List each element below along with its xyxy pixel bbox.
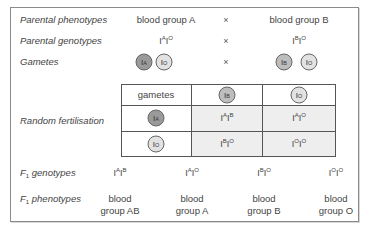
cell-ibio: IBIO [220,138,234,150]
parent-b-phenotype: blood group B [269,14,328,26]
grid-divider [262,84,263,157]
cell-iaio: IAIO [292,112,306,124]
grid-divider [191,84,192,157]
cross-symbol: × [223,15,228,25]
f1-genotype-iaio: IAIO [185,167,199,179]
parent-a-phenotype: blood group A [137,14,196,26]
f1-phenotype-a: bloodgroup A [176,193,209,217]
label-random-fertilisation: Random fertilisation [20,115,104,126]
grid-divider [121,105,336,106]
cross-symbol: × [223,36,228,46]
label-f1-genotypes: F1 genotypes [20,167,76,179]
cell-iaib: IAIB [220,112,233,124]
punnett-corner-label: gametes [138,89,174,101]
gamete-a-io: IO [156,54,173,71]
gamete-b-ib: IB [276,54,293,71]
f1-genotype-iaib: IAIB [113,167,126,179]
gamete-b-io: IO [301,54,318,71]
parent-b-genotype: IBIO [292,35,306,47]
cross-symbol: × [223,57,228,67]
f1-phenotype-ab: bloodgroup AB [100,193,139,217]
f1-genotype-ioio: IOIO [329,167,343,179]
cell-ioio: IOIO [292,138,306,150]
parent-a-genotype: IAIO [159,35,173,47]
grid-divider [121,131,336,132]
f1-genotype-ibio: IBIO [257,167,271,179]
row-header-ia: IA [148,110,165,127]
f1-phenotype-b: bloodgroup B [247,193,280,217]
label-gametes: Gametes [20,56,59,67]
row-header-io: IO [148,136,165,153]
label-parental-phenotypes: Parental phenotypes [20,14,107,25]
col-header-io: IO [291,87,308,104]
gamete-a-ia: IA [136,54,153,71]
f1-phenotype-o: bloodgroup O [319,193,353,217]
label-f1-phenotypes: F1 phenotypes [20,193,81,205]
col-header-ib: IB [219,87,236,104]
label-parental-genotypes: Parental genotypes [20,35,102,46]
